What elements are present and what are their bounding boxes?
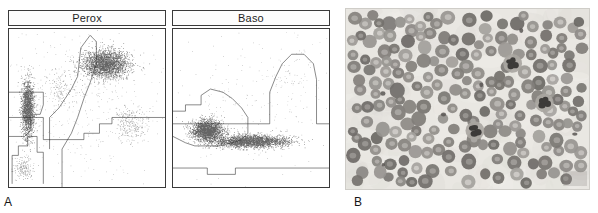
cytogram-baso-plot-area[interactable] — [172, 28, 330, 188]
cytogram-baso-title: Baso — [172, 10, 330, 26]
cytogram-perox-title: Perox — [8, 10, 166, 26]
gate-baso-gate[interactable] — [270, 54, 317, 124]
cytogram-perox-plot-area[interactable] — [8, 28, 166, 188]
cluster-lymphocytes — [18, 65, 39, 152]
blood-smear-canvas — [346, 9, 589, 189]
cluster-basophil-region — [263, 33, 327, 107]
cluster-background — [176, 32, 327, 186]
cluster-neutrophils — [69, 39, 150, 86]
scale-marker — [563, 171, 587, 186]
gate-noise-gate[interactable] — [12, 136, 43, 183]
cluster-eosinophils — [108, 103, 157, 147]
cluster-noise-debris — [12, 150, 35, 181]
gate-lower-split[interactable] — [173, 168, 329, 174]
panel-label-a: A — [4, 196, 12, 208]
cytogram-perox-canvas — [9, 29, 165, 187]
panel-label-b: B — [354, 196, 362, 208]
blood-smear-micrograph[interactable] — [345, 8, 590, 190]
cytogram-perox[interactable]: Perox — [8, 10, 166, 188]
cytogram-baso-canvas — [173, 29, 329, 187]
cytogram-baso[interactable]: Baso — [172, 10, 330, 188]
figure-root: Perox Baso A B — [0, 0, 598, 213]
cluster-background — [10, 30, 164, 184]
